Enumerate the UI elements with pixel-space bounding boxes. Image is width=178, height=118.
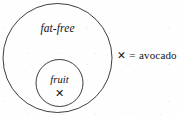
euler-diagram: fat-free fruit ✕ ✕ = avocado <box>0 0 178 118</box>
legend-label-avocado: avocado <box>139 50 177 61</box>
set-label-fruit: fruit <box>36 74 83 85</box>
legend-cross-icon: ✕ <box>117 50 126 61</box>
avocado-point-cross-icon: ✕ <box>36 88 83 99</box>
legend: ✕ = avocado <box>117 50 177 61</box>
set-label-fat-free: fat-free <box>0 22 115 34</box>
legend-equals-sign: = <box>129 50 135 61</box>
